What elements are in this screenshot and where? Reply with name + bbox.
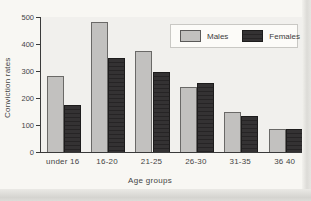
bar-males-31-35 xyxy=(224,112,241,153)
scanned-bar-chart-figure: Conviction rates 0100200300400500 under … xyxy=(0,0,311,201)
bar-females-21-25 xyxy=(153,72,170,152)
bar-males-26-30 xyxy=(180,87,197,152)
bar-females-26-30 xyxy=(197,83,214,152)
page-edge-right xyxy=(302,0,311,201)
legend-label-males: Males xyxy=(207,32,228,41)
page-edge-bottom xyxy=(0,189,311,201)
bar-females-16-20 xyxy=(108,58,125,153)
y-tick-mark-500 xyxy=(36,17,40,18)
y-tick-label-300: 300 xyxy=(10,67,34,76)
x-tick-label-under-16: under 16 xyxy=(39,157,87,166)
bar-males-under-16 xyxy=(47,76,64,152)
x-tick-label-21-25: 21-25 xyxy=(128,157,176,166)
x-axis-title: Age groups xyxy=(20,176,280,185)
legend-entry-males: Males xyxy=(180,30,228,42)
bar-males-36-40 xyxy=(269,129,286,152)
x-tick-label-26-30: 26-30 xyxy=(172,157,220,166)
y-tick-mark-400 xyxy=(36,44,40,45)
x-tick-label-16-20: 16-20 xyxy=(83,157,131,166)
legend-swatch-females xyxy=(242,30,263,42)
y-tick-label-100: 100 xyxy=(10,121,34,130)
bar-females-31-35 xyxy=(241,116,258,152)
legend-entry-females: Females xyxy=(242,30,300,42)
x-tick-label-31-35: 31-35 xyxy=(216,157,264,166)
y-tick-label-400: 400 xyxy=(10,40,34,49)
legend-swatch-males xyxy=(180,30,201,42)
bar-females-under-16 xyxy=(64,105,81,152)
y-tick-label-0: 0 xyxy=(10,148,34,157)
y-tick-mark-100 xyxy=(36,125,40,126)
bar-females-36-40 xyxy=(286,129,303,152)
y-tick-label-200: 200 xyxy=(10,94,34,103)
legend-label-females: Females xyxy=(269,32,300,41)
y-tick-mark-0 xyxy=(36,152,40,153)
y-tick-mark-200 xyxy=(36,98,40,99)
bar-males-21-25 xyxy=(135,51,152,152)
bar-males-16-20 xyxy=(91,22,108,152)
y-tick-label-500: 500 xyxy=(10,13,34,22)
legend: MalesFemales xyxy=(170,24,298,48)
y-tick-mark-300 xyxy=(36,71,40,72)
